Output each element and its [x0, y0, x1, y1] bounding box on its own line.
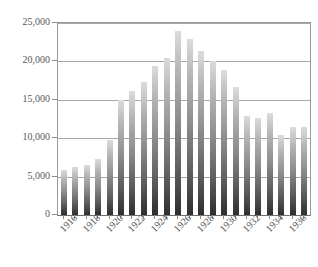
bar [164, 58, 170, 215]
bar [152, 66, 158, 215]
bar [267, 113, 273, 215]
x-tick-mark [212, 215, 213, 219]
y-tick-mark [52, 176, 57, 177]
x-tick-mark [257, 215, 258, 219]
y-tick-label: 5,000 [0, 171, 50, 181]
y-tick-label: 10,000 [0, 132, 50, 142]
bar [233, 87, 239, 215]
x-tick-mark [74, 215, 75, 219]
x-tick-mark [131, 215, 132, 219]
x-tick-mark [269, 215, 270, 219]
y-tick-mark [52, 22, 57, 23]
x-tick-mark [154, 215, 155, 219]
x-tick-mark [189, 215, 190, 219]
x-tick-mark [86, 215, 87, 219]
plot-area [57, 22, 311, 216]
y-tick-mark [52, 214, 57, 215]
bars-layer [58, 23, 310, 215]
x-tick-mark [177, 215, 178, 219]
bar [255, 118, 261, 215]
bar [278, 135, 284, 215]
bar [221, 70, 227, 215]
x-tick-mark [97, 215, 98, 219]
bar [95, 159, 101, 215]
x-tick-mark [235, 215, 236, 219]
bar [118, 100, 124, 215]
y-tick-label: 25,000 [0, 17, 50, 27]
x-tick-mark [292, 215, 293, 219]
x-tick-mark [109, 215, 110, 219]
x-tick-mark [280, 215, 281, 219]
bar [210, 61, 216, 215]
y-tick-mark [52, 99, 57, 100]
bar [72, 167, 78, 215]
bar [301, 127, 307, 215]
bar [175, 31, 181, 215]
bar [290, 127, 296, 215]
x-tick-mark [143, 215, 144, 219]
x-tick-mark [223, 215, 224, 219]
x-tick-mark [63, 215, 64, 219]
x-tick-mark [200, 215, 201, 219]
bar [107, 140, 113, 215]
bar [141, 82, 147, 215]
x-axis-ticks [57, 215, 311, 220]
bar [244, 116, 250, 215]
x-tick-mark [246, 215, 247, 219]
bar [84, 165, 90, 215]
bar [61, 170, 67, 215]
x-tick-mark [303, 215, 304, 219]
y-tick-label: 0 [0, 209, 50, 219]
bar [198, 51, 204, 215]
y-axis: 05,00010,00015,00020,00025,000 [0, 0, 50, 267]
bar [129, 91, 135, 215]
y-tick-mark [52, 60, 57, 61]
bar-chart: 05,00010,00015,00020,00025,000 191619181… [0, 0, 318, 267]
bar [187, 39, 193, 215]
y-tick-mark [52, 137, 57, 138]
x-tick-mark [120, 215, 121, 219]
y-tick-label: 20,000 [0, 55, 50, 65]
y-tick-label: 15,000 [0, 94, 50, 104]
x-tick-mark [166, 215, 167, 219]
